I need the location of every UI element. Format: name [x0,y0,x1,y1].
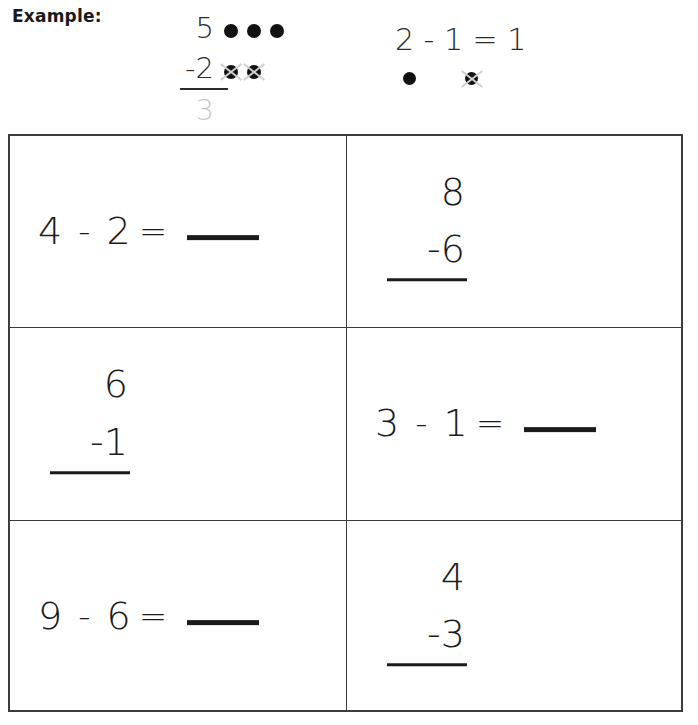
example-vertical-subtrahend-row: -2 [168,54,214,83]
answer-rule[interactable] [387,664,467,667]
problem-cell-6[interactable]: 4 -3 [347,521,683,712]
minus-sign: - [415,403,427,443]
counter-dot-icon [247,24,261,38]
example-crossed-dots [224,65,261,79]
subtrahend: -6 [387,231,465,271]
subtrahend: 2 [106,209,130,253]
problem-equation-horizontal: 3 - 1 = [375,401,596,445]
minus-sign: - [78,211,90,251]
crossed-out-dot-icon [465,72,478,85]
problem-grid: 4 - 2 = 8 -6 6 -1 3 - 1 = [8,134,683,712]
minuend: 4 [387,558,465,616]
answer-blank[interactable] [524,427,596,432]
problem-equation-horizontal: 4 - 2 = [38,209,259,253]
example-band: Example: 5 -2 3 2 - 1 = 1 [0,0,698,128]
example-horizontal-problem: 2 - 1 = 1 [395,22,595,122]
example-counter-dots-top [224,24,284,38]
problem-cell-1[interactable]: 4 - 2 = [10,136,347,328]
answer-blank[interactable] [187,235,259,240]
equals-sign: = [139,211,168,251]
example-answer-rule [180,88,228,90]
example-vertical-problem: 5 -2 3 [168,10,318,120]
problem-cell-3[interactable]: 6 -1 [10,328,347,521]
equals-sign: = [476,403,505,443]
example-vertical-answer-row: 3 [168,96,214,125]
subtrahend: 1 [443,401,467,445]
problem-equation-vertical: 8 -6 [387,173,507,282]
equals-sign: = [139,596,168,636]
problem-cell-2[interactable]: 8 -6 [347,136,683,328]
minuend: 8 [387,173,465,231]
problem-cell-5[interactable]: 9 - 6 = [10,521,347,712]
subtrahend: 6 [106,594,130,638]
problem-equation-vertical: 6 -1 [50,365,170,474]
example-horizontal-equation: 2 - 1 = 1 [395,22,526,57]
answer-rule[interactable] [387,279,467,282]
answer-blank[interactable] [187,620,259,625]
example-minuend: 5 [168,14,214,43]
example-vertical-top-row: 5 [168,14,214,43]
counter-dot-icon [403,72,416,85]
minuend: 9 [38,594,62,638]
counter-dot-icon [270,24,284,38]
problem-equation-vertical: 4 -3 [387,558,507,667]
subtrahend: -3 [387,616,465,656]
minuend: 4 [38,209,62,253]
example-subtrahend: -2 [168,54,214,83]
problem-cell-4[interactable]: 3 - 1 = [347,328,683,521]
example-label: Example: [12,6,102,26]
answer-rule[interactable] [50,471,130,474]
minus-sign: - [78,596,90,636]
crossed-out-dot-icon [224,65,238,79]
minuend: 3 [375,401,399,445]
counter-dot-icon [224,24,238,38]
subtrahend: -1 [50,423,128,463]
minuend: 6 [50,365,128,423]
problem-equation-horizontal: 9 - 6 = [38,594,259,638]
crossed-out-dot-icon [247,65,261,79]
example-answer: 3 [168,96,214,125]
